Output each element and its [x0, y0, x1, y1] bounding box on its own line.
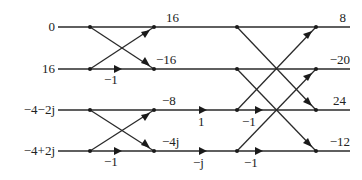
arrow-icon	[199, 147, 207, 155]
input-label-3: −4+2j	[24, 143, 55, 158]
output-label-2: 24	[333, 93, 347, 108]
stage1-output-2: −8	[162, 93, 176, 108]
output-label-1: −20	[330, 52, 350, 67]
twiddle-labels: 1 −j	[193, 114, 205, 170]
stage1-weight-0: −1	[104, 72, 118, 87]
stage2-butterflies	[237, 27, 316, 151]
stage1-weight-1: −1	[104, 154, 118, 169]
input-label-2: −4−2j	[24, 102, 55, 117]
arrowheads	[114, 30, 312, 155]
nodes	[88, 25, 318, 153]
stage2-weight-1: −1	[244, 155, 258, 170]
output-label-0: 8	[340, 10, 347, 25]
arrow-icon	[141, 113, 150, 121]
input-label-0: 0	[49, 19, 56, 34]
stage2-weights: −1 −1	[242, 114, 258, 170]
arrow-icon	[255, 147, 263, 155]
arrow-icon	[199, 106, 207, 114]
stage2-weight-0: −1	[242, 114, 256, 129]
arrow-icon	[141, 30, 150, 38]
twiddle-minus-j: −j	[193, 155, 204, 170]
input-labels: 0 16 −4−2j −4+2j	[24, 19, 56, 158]
fft-butterfly-diagram: 0 16 −4−2j −4+2j 16 −16 −8 −4j −1 −1 1 −…	[0, 0, 362, 180]
input-label-1: 16	[42, 61, 56, 76]
twiddle-1: 1	[198, 114, 205, 129]
stage1-butterflies	[90, 27, 154, 151]
arrow-icon	[141, 57, 150, 66]
arrow-icon	[255, 106, 263, 114]
output-label-3: −12	[330, 134, 350, 149]
arrow-icon	[141, 139, 150, 148]
horizontal-lines	[58, 27, 350, 151]
arrow-icon	[303, 73, 312, 81]
output-labels: 8 −20 24 −12	[330, 10, 350, 149]
stage1-output-3: −4j	[162, 134, 179, 149]
stage1-output-1: −16	[156, 52, 177, 67]
arrow-icon	[303, 31, 312, 39]
stage1-output-0: 16	[166, 10, 180, 25]
